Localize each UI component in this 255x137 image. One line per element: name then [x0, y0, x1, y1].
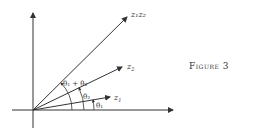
figure-caption: Figure 3: [189, 61, 229, 71]
vector-z2: [33, 67, 122, 110]
label-z1: z1: [113, 93, 121, 103]
label-theta1: θ₁: [96, 102, 103, 110]
vector-z1z2: [33, 17, 127, 110]
label-z1z2: z₁z₂: [130, 10, 146, 19]
label-theta-sum: θ₁ + θ₂: [63, 80, 88, 88]
arc-theta1: [93, 100, 94, 110]
label-theta2: θ₂: [83, 93, 90, 101]
label-z2: z2: [126, 62, 134, 72]
